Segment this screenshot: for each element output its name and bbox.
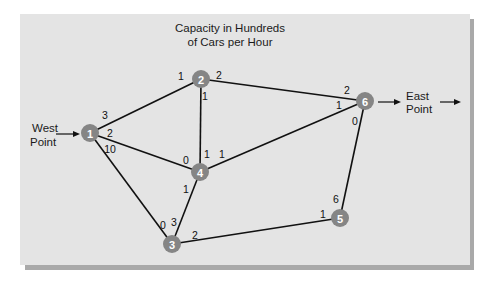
node-number: 1 (87, 128, 93, 140)
east-point-label-line2: Point (406, 103, 433, 115)
capacity-label-3-5-at-3: 2 (192, 229, 198, 241)
capacity-label-1-4-at-1: 2 (107, 127, 113, 139)
capacity-label-6-5-at-5: 6 (333, 193, 339, 205)
capacity-label-4-6-at-4: 1 (219, 148, 225, 160)
node-4: 4 (191, 163, 209, 181)
east-point-label-line1: East (406, 90, 430, 102)
node-6: 6 (356, 92, 374, 110)
capacity-label-1-2-at-1: 3 (102, 109, 108, 121)
capacity-label-3-5-at-5: 1 (320, 208, 326, 220)
edge-2-4 (200, 79, 201, 172)
node-number: 5 (337, 213, 343, 225)
network-flow-diagram: Capacity in Hundreds of Cars per Hour We… (0, 0, 494, 288)
diagram-title-line2: of Cars per Hour (187, 36, 272, 48)
node-3: 3 (163, 235, 181, 253)
capacity-label-2-6-at-2: 2 (216, 69, 222, 81)
capacity-label-2-6-at-6: 2 (344, 84, 350, 96)
capacity-label-2-4-at-4: 1 (204, 148, 210, 160)
node-number: 2 (198, 74, 204, 86)
capacity-label-4-6-at-6: 1 (336, 99, 342, 111)
node-number: 3 (169, 239, 175, 251)
diagram-title-line1: Capacity in Hundreds (175, 22, 285, 34)
node-number: 4 (197, 167, 204, 179)
capacity-label-1-3-at-3: 0 (160, 219, 166, 231)
node-1: 1 (81, 124, 99, 142)
capacity-label-1-4-at-4: 0 (183, 154, 189, 166)
capacity-label-4-3-at-4: 1 (183, 183, 189, 195)
capacity-label-2-4-at-2: 1 (202, 90, 208, 102)
node-2: 2 (192, 70, 210, 88)
west-point-label-line1: West (32, 122, 59, 134)
capacity-label-1-3-at-1: 10 (104, 143, 116, 155)
capacity-label-4-3-at-3: 3 (171, 216, 177, 228)
capacity-label-6-5-at-6: 0 (352, 115, 358, 127)
node-5: 5 (331, 209, 349, 227)
node-number: 6 (362, 96, 368, 108)
west-point-label-line2: Point (30, 136, 57, 148)
capacity-label-1-2-at-2: 1 (178, 70, 184, 82)
